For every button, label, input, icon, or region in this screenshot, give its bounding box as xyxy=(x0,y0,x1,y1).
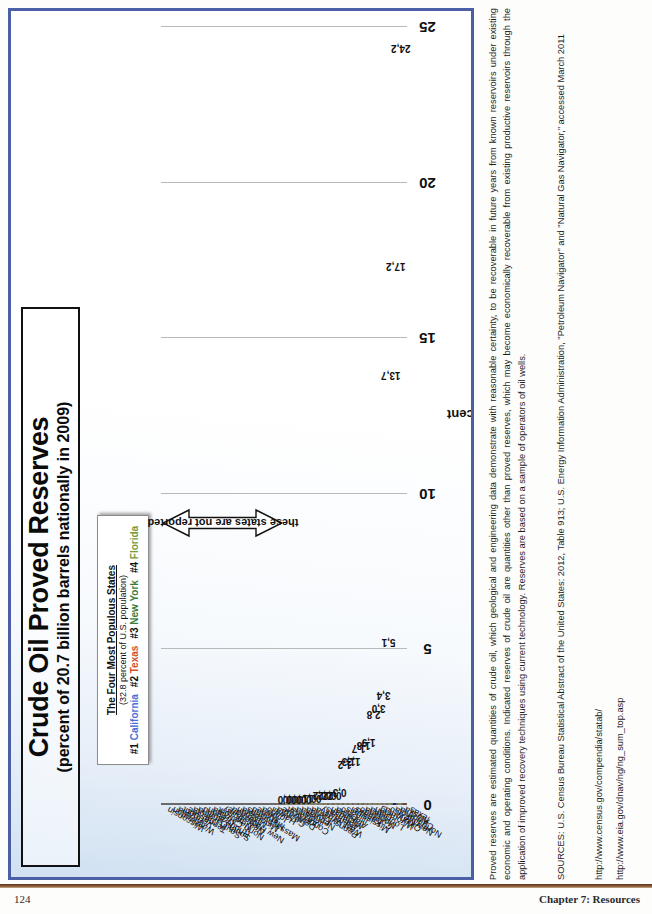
chapter-label: Chapter 7: Resources xyxy=(539,893,640,905)
plot-area: 0510152025percent24,2Texas17,2Alaska13,7… xyxy=(161,27,407,805)
gridline xyxy=(161,182,407,183)
bar-wyoming xyxy=(373,718,376,805)
chart-subtitle: (percent of 20.7 billion barrels nationa… xyxy=(55,319,73,855)
bar-texas xyxy=(403,52,406,805)
bar-value-label: 24,2 xyxy=(391,42,410,53)
source-url-eia[interactable]: http://www.eia.gov/dnav/ng/ng_sum_top.as… xyxy=(615,8,625,880)
bar-value-label: 17,2 xyxy=(386,260,405,271)
bar-value-label: 13,7 xyxy=(381,369,400,380)
axis-tick-label: 15 xyxy=(411,330,445,347)
bar-alaska xyxy=(398,270,401,805)
legend-item-california: #1 California xyxy=(129,694,140,754)
bar-kansas xyxy=(349,765,352,805)
not-reported-label: these states are not reported xyxy=(147,517,298,529)
bar-california xyxy=(393,379,396,805)
footnotes-panel: Proved reserves are estimated quantities… xyxy=(480,8,644,880)
legend-item-florida: #4 Florida xyxy=(129,526,140,573)
source-url-census[interactable]: http://www.census.gov/compendia/statab/ xyxy=(594,8,604,880)
footnotes-rotated: Proved reserves are estimated quantities… xyxy=(480,8,644,880)
gridline xyxy=(161,26,407,27)
bar-value-label: 1,7 xyxy=(352,743,366,754)
bar-value-label: 5,1 xyxy=(381,637,395,648)
legend-callout: The Four Most Populous States (32.8 perc… xyxy=(97,515,149,765)
axis-tick-label: 10 xyxy=(411,485,445,502)
plot-inner: 0510152025percent24,2Texas17,2Alaska13,7… xyxy=(161,27,407,805)
gridline xyxy=(161,648,407,649)
legend-items: #1 California #2 Texas #3 New York #4 Fl… xyxy=(129,526,140,754)
page-title: Crude Oil Proved Reserves xyxy=(26,319,54,855)
chart-rotated-canvas: Crude Oil Proved Reserves (percent of 20… xyxy=(11,11,471,880)
chart-title-box: Crude Oil Proved Reserves (percent of 20… xyxy=(21,307,80,867)
bar-utah xyxy=(368,746,371,805)
bar-north-dakota xyxy=(388,646,391,805)
note-proved-reserves: Proved reserves are estimated quantities… xyxy=(486,8,529,880)
gridline xyxy=(161,493,407,494)
bar-value-label: 2,8 xyxy=(367,708,381,719)
page-divider-rule xyxy=(0,884,652,888)
note-sources: SOURCES: U.S. Census Bureau Statistical … xyxy=(554,8,568,880)
legend-subtitle: (32.8 percent of U.S. population) xyxy=(118,575,128,705)
chart-panel: Crude Oil Proved Reserves (percent of 20… xyxy=(8,8,474,880)
legend-item-new-york: #3 New York xyxy=(129,580,140,639)
axis-tick-label: 25 xyxy=(411,19,445,36)
bar-value-label: 3,4 xyxy=(376,690,390,701)
bar-value-label: 1,2 xyxy=(337,758,351,769)
bar-louisiana xyxy=(364,749,367,805)
axis-title-percent: percent xyxy=(447,407,474,422)
page-number: 124 xyxy=(14,893,31,905)
scanned-page: Crude Oil Proved Reserves (percent of 20… xyxy=(0,0,652,914)
bar-oklahoma xyxy=(378,712,381,805)
legend-item-texas: #2 Texas xyxy=(129,646,140,688)
bar-value-label: 0,0 xyxy=(278,794,292,805)
legend-title: The Four Most Populous States xyxy=(106,565,117,715)
bar-colorado xyxy=(354,765,357,805)
axis-tick-label: 5 xyxy=(411,641,445,658)
gridline xyxy=(161,337,407,338)
axis-tick-label: 20 xyxy=(411,174,445,191)
bar-new-mexico xyxy=(383,699,386,805)
